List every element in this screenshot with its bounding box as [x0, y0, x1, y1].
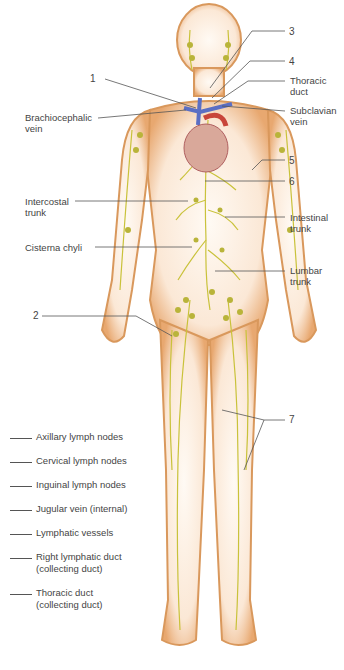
answer-blank[interactable]	[10, 438, 32, 439]
label-5: 5	[289, 155, 295, 166]
label-intestinal-trunk: Intestinal trunk	[290, 212, 328, 234]
label-line: Brachiocephalic	[25, 112, 92, 123]
answer-blank[interactable]	[10, 594, 32, 595]
legend-item: Axillary lymph nodes	[8, 430, 188, 454]
legend-line: Right lymphatic duct	[36, 551, 122, 563]
legend-item: Right lymphatic duct (collecting duct)	[8, 550, 188, 586]
legend-text: Lymphatic vessels	[36, 527, 113, 539]
label-thoracic-duct: Thoracic duct	[290, 75, 326, 97]
label-subclavian-vein: Subclavian vein	[290, 105, 336, 127]
legend-text: Thoracic duct (collecting duct)	[36, 587, 103, 611]
label-line: vein	[25, 123, 92, 134]
answer-blank[interactable]	[10, 534, 32, 535]
answer-blank[interactable]	[10, 462, 32, 463]
label-4: 4	[289, 56, 295, 67]
label-1: 1	[90, 73, 96, 84]
legend-line: (collecting duct)	[36, 599, 103, 611]
legend-item: Cervical lymph nodes	[8, 454, 188, 478]
legend-item: Lymphatic vessels	[8, 526, 188, 550]
label-line: Subclavian	[290, 105, 336, 116]
legend-line: (collecting duct)	[36, 563, 122, 575]
legend-item: Thoracic duct (collecting duct)	[8, 586, 188, 622]
legend-text: Axillary lymph nodes	[36, 431, 123, 443]
label-lumbar-trunk: Lumbar trunk	[290, 265, 322, 287]
legend-item: Inguinal lymph nodes	[8, 478, 188, 502]
legend-line: Thoracic duct	[36, 587, 103, 599]
label-line: Intercostal	[25, 196, 69, 207]
label-line: Cisterna chyli	[25, 242, 82, 253]
label-line: duct	[290, 86, 326, 97]
label-2: 2	[33, 310, 39, 321]
legend-text: Cervical lymph nodes	[36, 455, 127, 467]
label-line: Intestinal	[290, 212, 328, 223]
label-7: 7	[289, 414, 295, 425]
answer-blank[interactable]	[10, 486, 32, 487]
label-brachiocephalic-vein: Brachiocephalic vein	[25, 112, 92, 134]
label-3: 3	[289, 26, 295, 37]
answer-blank[interactable]	[10, 558, 32, 559]
legend-item: Jugular vein (internal)	[8, 502, 188, 526]
label-6: 6	[289, 176, 295, 187]
label-intercostal-trunk: Intercostal trunk	[25, 196, 69, 218]
legend-text: Right lymphatic duct (collecting duct)	[36, 551, 122, 575]
label-line: trunk	[290, 223, 328, 234]
legend-text: Inguinal lymph nodes	[36, 479, 126, 491]
answer-blank[interactable]	[10, 510, 32, 511]
label-line: trunk	[290, 276, 322, 287]
answer-legend: Axillary lymph nodes Cervical lymph node…	[8, 430, 188, 622]
legend-text: Jugular vein (internal)	[36, 503, 127, 515]
label-line: vein	[290, 116, 336, 127]
label-line: Thoracic	[290, 75, 326, 86]
label-line: trunk	[25, 207, 69, 218]
label-cisterna-chyli: Cisterna chyli	[25, 242, 82, 253]
label-line: Lumbar	[290, 265, 322, 276]
